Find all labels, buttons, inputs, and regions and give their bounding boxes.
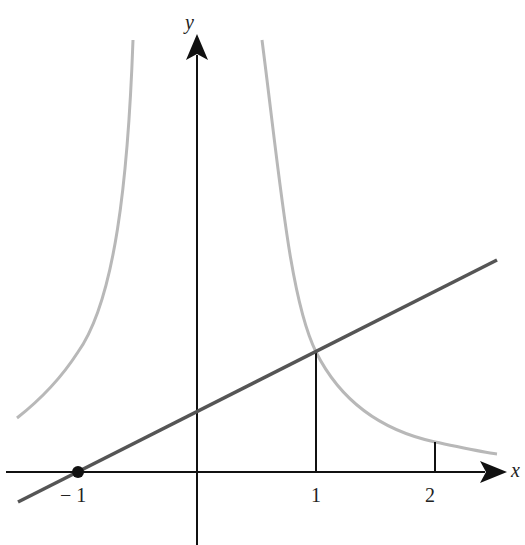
tick-label-neg1: − 1: [60, 485, 86, 505]
x-axis-label: x: [511, 460, 520, 480]
curve-right-branch: [262, 40, 497, 454]
curve-left-branch: [17, 40, 133, 418]
tick-label-1: 1: [311, 485, 321, 505]
tick-label-2: 2: [425, 485, 435, 505]
chart-canvas: [0, 0, 525, 545]
point-neg1: [72, 466, 84, 478]
line-series: [18, 260, 497, 502]
y-axis-label: y: [185, 12, 194, 32]
